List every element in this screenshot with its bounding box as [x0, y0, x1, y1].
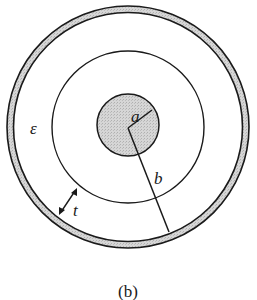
coaxial-cross-section-diagram: a b ε t (b): [0, 0, 257, 300]
figure-caption: (b): [118, 282, 138, 300]
label-epsilon: ε: [30, 119, 37, 138]
label-a: a: [131, 107, 140, 126]
label-b: b: [154, 169, 163, 188]
inner-conductor: [97, 94, 159, 156]
